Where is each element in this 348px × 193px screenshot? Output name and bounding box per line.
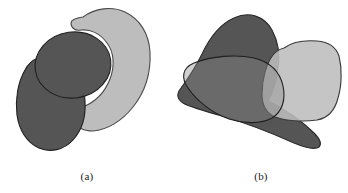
shape-translucent-lens [184,56,284,123]
figure-root: (a) (b) [0,0,348,193]
panel-a-caption: (a) [0,168,174,184]
panel-b-caption: (b) [174,168,348,184]
panel-b-canvas [174,0,348,168]
panel-a-canvas [0,0,174,168]
figure-panel-a: (a) [0,0,174,193]
figure-panel-b: (b) [174,0,348,193]
